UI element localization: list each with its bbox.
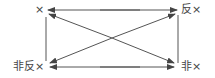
edge-diag-tl-br-b <box>112 38 174 63</box>
node-top-right: 反× <box>181 4 201 16</box>
edge-diag-bl-tr-b <box>112 14 175 38</box>
edge-diag-bl-tr-a <box>50 38 112 63</box>
edge-diag-tl-br-a <box>49 14 112 38</box>
node-top-left: × <box>35 4 44 16</box>
node-bottom-left: 非反× <box>13 61 44 73</box>
node-bottom-right: 非× <box>181 61 201 73</box>
